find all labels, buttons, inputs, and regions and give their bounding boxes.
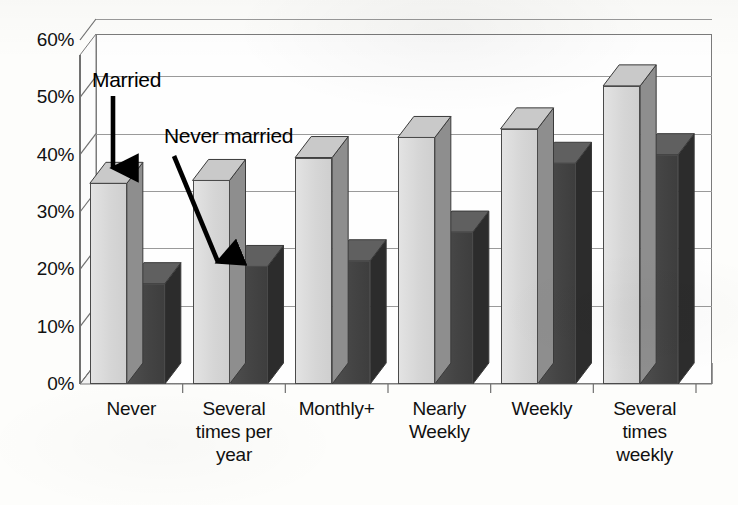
x-axis-category-line: times [593, 420, 696, 443]
plot-area: 0%10%20%30%40%50%60% NeverSeveraltimes p… [0, 0, 738, 505]
x-axis-category-label: Never [80, 397, 183, 420]
x-axis-category-line: Monthly+ [285, 397, 388, 420]
annotation-label-never-married: Never married [164, 125, 293, 146]
x-axis-category-line: times per [183, 420, 286, 443]
x-axis-category-line: Several [183, 397, 286, 420]
x-axis-category-label: Weekly [491, 397, 594, 420]
bar-chart: 0%10%20%30%40%50%60% NeverSeveraltimes p… [0, 0, 738, 505]
x-axis-category-line: Weekly [491, 397, 594, 420]
x-axis-labels: NeverSeveraltimes peryearMonthly+NearlyW… [0, 392, 738, 502]
x-axis-category-label: Severaltimesweekly [593, 397, 696, 466]
x-axis-category-label: Severaltimes peryear [183, 397, 286, 466]
x-axis-category-label: Monthly+ [285, 397, 388, 420]
x-axis-category-line: weekly [593, 443, 696, 466]
x-axis-category-line: Several [593, 397, 696, 420]
x-axis-category-line: year [183, 443, 286, 466]
x-axis-category-label: NearlyWeekly [388, 397, 491, 443]
x-axis-category-line: Weekly [388, 420, 491, 443]
x-axis-category-line: Nearly [388, 397, 491, 420]
x-axis-category-line: Never [80, 397, 183, 420]
annotation-label-married: Married [92, 69, 161, 90]
